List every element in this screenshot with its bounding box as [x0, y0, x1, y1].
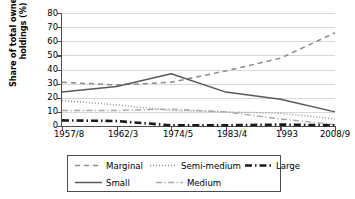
y-tick-label: 20 [36, 92, 58, 102]
x-tick-label: 2008/9 [307, 129, 355, 139]
series-layer [62, 13, 335, 126]
legend-key-semi-medium [150, 161, 177, 170]
legend-row: Marginal Semi-medium Large [68, 157, 300, 174]
legend-key-medium [156, 178, 183, 187]
y-axis-title: Share of total ownership holdings (%) [7, 0, 29, 93]
legend-label: Semi-medium [181, 161, 241, 171]
y-tick-label: 40 [36, 64, 58, 74]
y-tick-label: 10 [36, 106, 58, 116]
legend-label: Large [276, 161, 300, 171]
legend-row: Small Medium [68, 174, 221, 191]
series-line-medium [62, 109, 335, 125]
legend-key-large [245, 161, 272, 170]
y-tick-label: 80 [36, 8, 58, 18]
legend-label: Small [106, 178, 130, 188]
x-tick-label: 1974/5 [150, 129, 206, 139]
legend-label: Marginal [106, 161, 143, 171]
legend-item-marginal: Marginal [75, 161, 143, 171]
legend-item-small: Small [75, 178, 130, 188]
legend-item-semi-medium: Semi-medium [150, 161, 241, 171]
series-line-small [62, 74, 335, 112]
series-line-large [62, 120, 335, 125]
x-tick-label: 1983/4 [204, 129, 260, 139]
y-tick-label: 30 [36, 78, 58, 88]
legend-item-medium: Medium [156, 178, 221, 188]
x-tick-label: 1962/3 [95, 129, 151, 139]
x-tick-label: 1957/8 [41, 129, 97, 139]
legend-label: Medium [187, 178, 221, 188]
y-tick-label: 60 [36, 36, 58, 46]
legend-key-small [75, 178, 102, 187]
legend-key-marginal [75, 161, 102, 170]
chart-legend: Marginal Semi-medium Large Small [67, 155, 281, 192]
y-tick-label: 50 [36, 50, 58, 60]
legend-item-large: Large [245, 161, 300, 171]
series-line-marginal [62, 33, 335, 85]
plot-area [62, 13, 335, 126]
y-tick-label: 70 [36, 22, 58, 32]
